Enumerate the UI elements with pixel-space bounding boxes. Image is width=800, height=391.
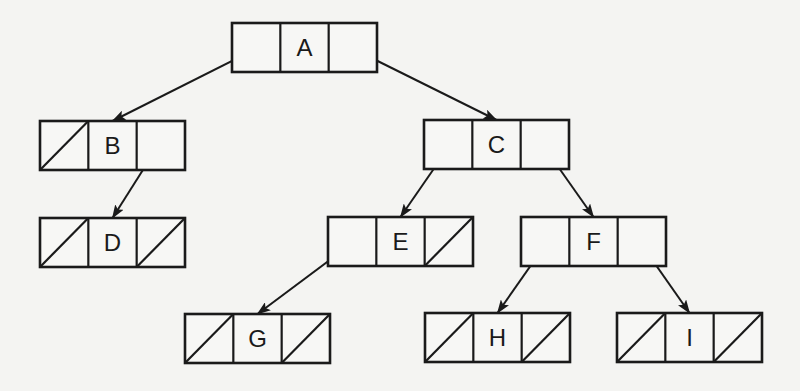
node-label: H <box>489 324 506 351</box>
tree-node-f: F <box>521 217 666 266</box>
tree-node-i: I <box>617 313 762 362</box>
tree-node-b: B <box>40 121 185 170</box>
tree-node-e: E <box>328 217 473 266</box>
tree-node-c: C <box>424 120 569 169</box>
node-label: F <box>586 228 601 255</box>
nodes-layer: ABCDEFGHI <box>40 23 762 363</box>
binary-tree-diagram: ABCDEFGHI <box>0 0 800 391</box>
tree-node-d: D <box>40 218 185 267</box>
edges-layer <box>113 48 690 315</box>
tree-node-h: H <box>425 313 570 362</box>
node-label: C <box>488 131 505 158</box>
node-label: B <box>104 132 120 159</box>
node-label: I <box>686 324 693 351</box>
node-label: E <box>392 228 408 255</box>
node-label: A <box>296 34 312 61</box>
node-label: D <box>104 229 121 256</box>
tree-node-a: A <box>232 23 377 72</box>
node-label: G <box>248 325 267 352</box>
tree-node-g: G <box>185 314 330 363</box>
